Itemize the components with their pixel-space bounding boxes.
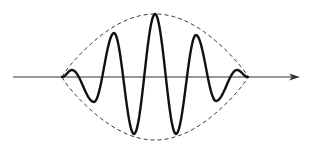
wave-curve (62, 14, 248, 134)
oscillating-wave (62, 14, 248, 134)
diagram-svg (0, 0, 309, 150)
horizontal-axis-arrow (13, 74, 300, 81)
envelope-top (62, 14, 248, 77)
envelope-bottom (62, 77, 248, 140)
wave-packet-diagram (0, 0, 309, 150)
